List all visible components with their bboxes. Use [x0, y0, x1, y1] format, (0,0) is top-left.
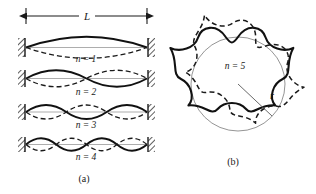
circle-mode-label: n = 5 — [225, 61, 246, 71]
length-label: L — [83, 10, 90, 22]
wall-left-3 — [18, 104, 25, 120]
mode-label-4: n = 4 — [76, 152, 97, 162]
figure-canvas: L n = 1 — [0, 0, 316, 194]
figure-background — [0, 0, 316, 194]
wall-left-2 — [18, 70, 25, 87]
radius-label: r — [270, 90, 274, 101]
mode-label-3: n = 3 — [76, 120, 97, 130]
wall-right-2 — [148, 70, 155, 87]
mode-label-2: n = 2 — [76, 87, 97, 97]
panel-b-caption: (b) — [227, 156, 239, 168]
wall-left-1 — [18, 38, 25, 57]
mode-label-1: n = 1 — [76, 54, 97, 64]
standing-waves-figure: L n = 1 — [0, 0, 316, 194]
wall-right-3 — [148, 104, 155, 120]
panel-a-caption: (a) — [78, 173, 89, 185]
wall-right-1 — [148, 38, 155, 57]
wall-right-4 — [148, 137, 155, 152]
wall-left-4 — [18, 137, 25, 152]
